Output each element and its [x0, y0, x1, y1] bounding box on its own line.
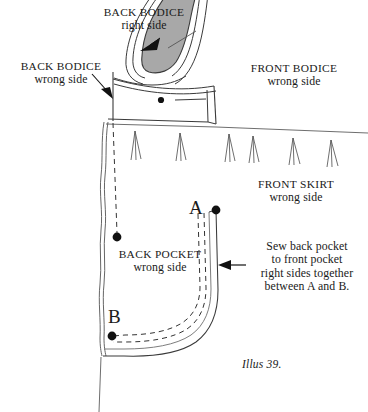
pocket-right-edge-inner	[104, 212, 211, 349]
arrowhead-sew-instruction	[218, 260, 231, 270]
instruction-line-4: between A and B.	[248, 280, 366, 293]
gather-mark	[289, 138, 300, 165]
stitch-line-outer	[113, 213, 206, 342]
label-line-2: wrong side	[2, 73, 120, 86]
skirt-waist-line-right	[216, 127, 368, 133]
gather-marks-group	[131, 131, 338, 167]
pocket-upper-dot	[113, 233, 122, 242]
sewing-illustration-figure: BACK BODICE right side BACK BODICE wrong…	[0, 0, 368, 412]
gather-mark	[327, 140, 338, 167]
point-b-label: B	[108, 306, 121, 328]
pocket-right-edge-outer	[103, 210, 218, 356]
gather-mark	[176, 133, 186, 161]
pocket-placement-dashed-line	[113, 123, 117, 233]
label-line-2: right side	[78, 19, 210, 32]
label-back-bodice-right-side: BACK BODICE right side	[78, 6, 210, 32]
label-back-pocket-wrong-side: BACK POCKET wrong side	[108, 248, 212, 274]
bodice-right-edge-cap	[208, 122, 216, 124]
waistband-dash-marker	[175, 99, 206, 100]
skirt-waist-seam	[106, 124, 368, 133]
bodice-band-top-edge-inner	[114, 84, 216, 94]
fold-edge-outer	[99, 122, 104, 356]
label-front-bodice-wrong-side: FRONT BODICE wrong side	[228, 62, 360, 88]
stitch-line-inner	[113, 214, 200, 336]
bodice-waistband-block	[108, 72, 216, 124]
label-line-2: wrong side	[228, 75, 360, 88]
instruction-line-3: right sides together	[248, 267, 366, 280]
gather-mark	[249, 136, 259, 163]
point-b-dot	[108, 332, 117, 341]
skirt-left-fold-edge	[99, 122, 108, 356]
gather-mark	[131, 131, 141, 160]
figure-caption: Illus 39.	[242, 358, 282, 371]
point-a-dot	[212, 206, 221, 215]
bodice-right-edge-outer	[214, 86, 216, 124]
back-pocket-outline	[103, 210, 218, 356]
arrowhead-back-bodice-wrong	[101, 87, 113, 99]
label-front-skirt-wrong-side: FRONT SKIRT wrong side	[236, 178, 356, 204]
skirt-waist-line-left	[106, 124, 216, 127]
gather-mark	[225, 134, 235, 162]
bodice-right-edge-inner	[207, 90, 208, 122]
instruction-line-2: to front pocket	[248, 253, 366, 266]
label-sew-instruction: Sew back pocket to front pocket right si…	[248, 240, 366, 294]
instruction-line-1: Sew back pocket	[248, 240, 366, 253]
point-a-label: A	[189, 197, 203, 219]
pocket-stitching-lines	[113, 213, 206, 342]
label-back-bodice-wrong-side: BACK BODICE wrong side	[2, 60, 120, 86]
skirt-lower-center-line	[99, 357, 101, 412]
bodice-band-bottom-edge	[108, 119, 208, 122]
waistband-dot-marker	[158, 97, 164, 103]
label-line-2: wrong side	[108, 261, 212, 274]
label-line-2: wrong side	[236, 191, 356, 204]
